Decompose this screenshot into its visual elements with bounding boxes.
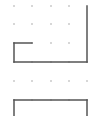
grid-dot[interactable]	[86, 80, 88, 82]
grid-dot[interactable]	[68, 23, 70, 25]
dot-grid-board[interactable]	[0, 0, 96, 116]
grid-dot[interactable]	[68, 5, 70, 7]
grid-dot[interactable]	[50, 42, 52, 44]
grid-dot[interactable]	[68, 80, 70, 82]
drawn-lines	[14, 6, 87, 116]
grid-dot[interactable]	[31, 5, 33, 7]
dot-grid-canvas[interactable]	[0, 0, 96, 116]
grid-dots	[13, 5, 88, 101]
grid-dot[interactable]	[13, 5, 15, 7]
grid-dot[interactable]	[13, 23, 15, 25]
grid-dot[interactable]	[13, 80, 15, 82]
grid-dot[interactable]	[31, 80, 33, 82]
grid-dot[interactable]	[68, 42, 70, 44]
grid-dot[interactable]	[50, 23, 52, 25]
grid-dot[interactable]	[31, 23, 33, 25]
grid-dot[interactable]	[50, 80, 52, 82]
grid-dot[interactable]	[50, 5, 52, 7]
